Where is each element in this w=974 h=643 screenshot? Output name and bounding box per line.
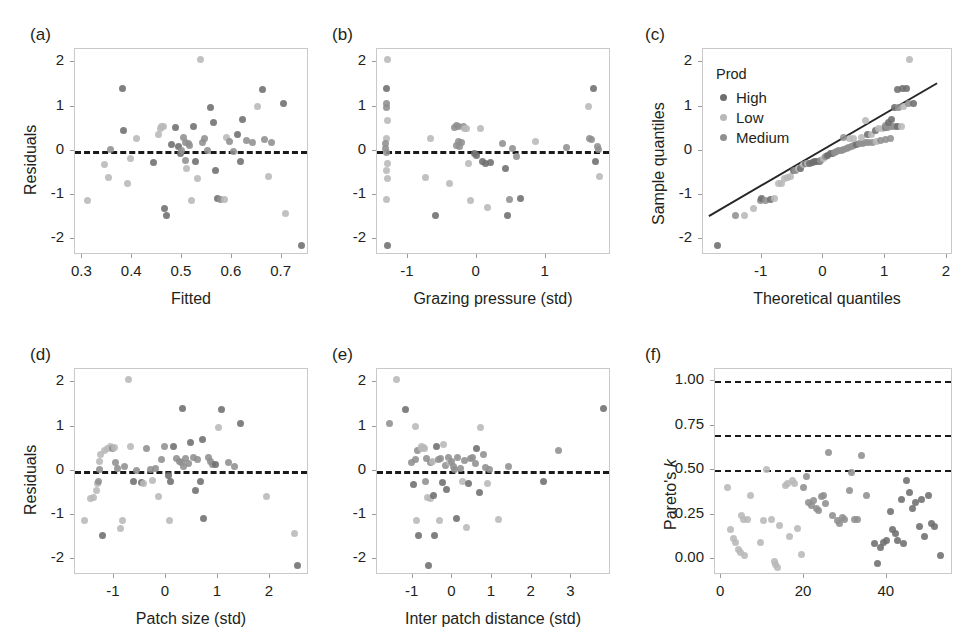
y-tick-label: 0 <box>298 140 366 157</box>
data-point <box>280 100 287 107</box>
data-point <box>168 141 175 148</box>
data-point <box>440 441 447 448</box>
y-tick-label: 1 <box>0 416 64 433</box>
y-tick-label: -2 <box>298 548 366 565</box>
data-point <box>563 144 570 151</box>
x-tick-label: 0 <box>792 262 852 279</box>
data-point <box>192 487 199 494</box>
y-tick-mark <box>70 61 74 62</box>
x-axis-label-a: Fitted <box>31 290 351 308</box>
data-point <box>480 451 487 458</box>
data-point <box>906 489 913 496</box>
data-point <box>798 551 805 558</box>
legend: ProdHighLowMedium <box>716 66 789 147</box>
data-point <box>714 242 721 249</box>
data-point <box>199 436 206 443</box>
y-tick-mark <box>70 106 74 107</box>
plot-area-a <box>74 48 308 254</box>
data-point <box>487 159 494 166</box>
x-tick-label: 3 <box>540 582 600 599</box>
y-axis-label-c: Sample quantiles <box>650 102 668 225</box>
y-axis-label-a: Residuals <box>22 125 40 195</box>
x-tick-label: 1 <box>854 262 914 279</box>
y-tick-mark <box>372 61 376 62</box>
data-point <box>107 146 114 153</box>
x-tick-mark <box>491 574 492 578</box>
data-point <box>383 149 390 156</box>
data-point <box>261 136 268 143</box>
y-tick-mark <box>70 194 74 195</box>
data-point <box>282 210 289 217</box>
data-point <box>747 492 754 499</box>
legend-item-low[interactable]: Low <box>716 107 789 127</box>
data-point <box>887 135 894 142</box>
x-tick-label: 0 <box>690 582 750 599</box>
x-tick-mark <box>720 574 721 578</box>
y-tick-label: 1.00 <box>636 370 704 387</box>
data-point <box>215 424 222 431</box>
legend-item-high[interactable]: High <box>716 87 789 107</box>
data-point <box>384 175 391 182</box>
data-point <box>848 469 855 476</box>
y-tick-mark <box>710 469 714 470</box>
data-point <box>410 481 417 488</box>
plot-area-f <box>714 368 952 574</box>
data-point <box>486 466 493 473</box>
data-point <box>152 465 159 472</box>
x-tick-mark <box>181 254 182 258</box>
data-point <box>167 478 174 485</box>
data-point <box>188 197 195 204</box>
legend-item-medium[interactable]: Medium <box>716 127 789 147</box>
data-point <box>421 445 428 452</box>
data-point <box>185 460 192 467</box>
data-point <box>810 497 817 504</box>
x-tick-mark <box>822 254 823 258</box>
x-tick-mark <box>803 574 804 578</box>
x-tick-label: 0 <box>446 262 506 279</box>
data-point <box>776 522 783 529</box>
data-point <box>96 466 103 473</box>
data-point <box>384 160 391 167</box>
data-point <box>909 505 916 512</box>
data-point <box>887 508 894 515</box>
y-tick-label: -2 <box>0 548 64 565</box>
data-point <box>931 523 938 530</box>
data-point <box>178 147 185 154</box>
data-point <box>750 205 757 212</box>
data-point <box>160 123 167 130</box>
data-point <box>590 85 597 92</box>
data-point <box>183 165 190 172</box>
y-tick-mark <box>698 61 702 62</box>
x-tick-label: 0.7 <box>251 262 311 279</box>
y-tick-label: -1 <box>298 504 366 521</box>
y-tick-mark <box>70 470 74 471</box>
data-point <box>90 494 97 501</box>
data-point <box>99 532 106 539</box>
data-point <box>820 492 827 499</box>
data-point <box>427 135 434 142</box>
data-point <box>291 530 298 537</box>
data-point <box>197 478 204 485</box>
data-point <box>815 507 822 514</box>
x-tick-mark <box>81 254 82 258</box>
y-tick-mark <box>710 380 714 381</box>
data-point <box>465 480 472 487</box>
data-point <box>477 424 484 431</box>
data-point <box>906 56 913 63</box>
y-axis-label-f: Pareto's k <box>662 459 680 530</box>
data-point <box>463 524 470 531</box>
y-axis-label-d: Residuals <box>22 445 40 515</box>
data-point <box>588 136 595 143</box>
data-point <box>439 479 446 486</box>
data-point <box>892 530 899 537</box>
data-point <box>555 447 562 454</box>
data-point <box>741 552 748 559</box>
data-point <box>791 480 798 487</box>
legend-swatch-high <box>720 94 727 101</box>
y-tick-mark <box>698 150 702 151</box>
y-tick-mark <box>70 381 74 382</box>
data-point <box>863 492 870 499</box>
data-point <box>187 439 194 446</box>
data-point <box>484 204 491 211</box>
data-point <box>263 493 270 500</box>
